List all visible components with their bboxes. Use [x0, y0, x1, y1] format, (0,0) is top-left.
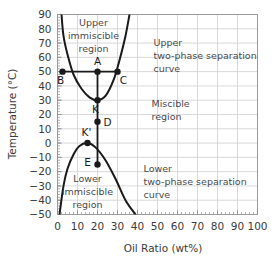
y-axis-title: Temperature (°C): [6, 69, 18, 161]
upper-two-phase-separation-curve: two-phase separation: [154, 50, 257, 61]
y-tick-label: 80: [38, 23, 51, 35]
lower-two-phase-separation-curve: two-phase separation: [144, 176, 247, 187]
lower-immiscible-region: region: [72, 199, 102, 210]
x-tick-label: 20: [91, 220, 104, 232]
y-tick-label: 10: [38, 123, 51, 135]
upper-immiscible-region: Upper: [79, 17, 108, 28]
y-tick-label: 50: [38, 65, 51, 77]
y-tick-label: 70: [38, 37, 51, 49]
y-tick-label: −30: [29, 180, 51, 192]
data-point-label: D: [103, 116, 111, 128]
y-tick-label: 40: [38, 80, 51, 92]
lower-two-phase-separation-curve: Lower: [144, 163, 173, 174]
data-point-marker: [84, 140, 90, 146]
y-tick-label: 90: [38, 8, 51, 20]
x-tick-label: 0: [54, 220, 61, 232]
data-point-marker: [94, 161, 100, 167]
lower-immiscible-region: Lower: [73, 173, 102, 184]
data-point-label: E: [84, 156, 91, 168]
x-tick-label: 40: [131, 220, 144, 232]
data-point-label: B: [57, 74, 64, 86]
miscible-region: region: [152, 111, 182, 122]
x-axis-title: Oil Ratio (wt%): [124, 242, 203, 254]
upper-two-phase-separation-curve: Upper: [154, 37, 183, 48]
data-point-label: K': [82, 126, 92, 138]
x-tick-label: 30: [111, 220, 124, 232]
x-tick-label: 60: [171, 220, 184, 232]
data-point-marker: [94, 118, 100, 124]
x-tick-label: 50: [151, 220, 164, 232]
y-tick-label: 60: [38, 51, 51, 63]
y-tick-label: −10: [29, 151, 51, 163]
data-point-label: K: [92, 103, 100, 115]
x-tick-label: 80: [211, 220, 224, 232]
data-point-marker: [94, 68, 100, 74]
y-tick-label: 30: [38, 94, 51, 106]
lower-immiscible-region: immiscible: [62, 186, 113, 197]
x-tick-label: 100: [247, 220, 267, 232]
y-tick-label: −40: [29, 194, 51, 206]
phase-diagram-chart: 0102030405060708090100 90807060504030201…: [0, 0, 279, 269]
data-point-label: C: [120, 74, 127, 86]
x-tick-label: 10: [71, 220, 84, 232]
upper-immiscible-region: immiscible: [68, 30, 119, 41]
y-tick-label: 20: [38, 108, 51, 120]
phase-diagram-figure: 0102030405060708090100 90807060504030201…: [0, 0, 279, 269]
y-tick-label: 0: [45, 137, 52, 149]
x-tick-label: 90: [231, 220, 244, 232]
lower-two-phase-separation-curve: curve: [144, 189, 171, 200]
upper-two-phase-separation-curve: curve: [154, 63, 181, 74]
x-tick-label: 70: [191, 220, 204, 232]
upper-immiscible-region: region: [78, 43, 108, 54]
y-tick-label: −20: [29, 165, 51, 177]
miscible-region: Miscible: [152, 98, 190, 109]
data-point-label: A: [94, 55, 102, 67]
y-tick-label: −50: [29, 208, 51, 220]
